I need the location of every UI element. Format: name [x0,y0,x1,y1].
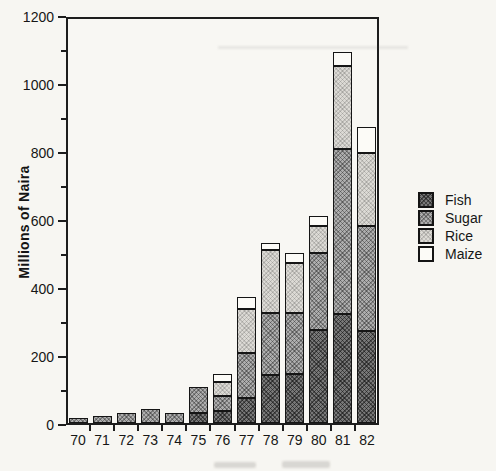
bar-78-segment-sugar [261,313,280,376]
x-tick-label-72: 72 [114,432,138,448]
x-tick-label-71: 71 [90,432,114,448]
bar-79-segment-sugar [285,313,304,374]
y-tick-label-0: 0 [12,418,54,432]
y-tick-400 [58,288,66,290]
y-tick-label-1200: 1200 [12,10,54,24]
legend-item-sugar: Sugar [418,209,482,227]
bar-79-segment-maize [285,253,304,263]
y-tick-label-800: 800 [12,146,54,160]
bar-82-segment-sugar [357,226,376,331]
bar-81-segment-maize [333,52,352,66]
bar-82-segment-rice [357,153,376,226]
cropped-caption-remnant [214,462,256,468]
bar-81-segment-rice [333,66,352,149]
bar-75-segment-fish [189,413,208,423]
y-tick-200 [58,356,66,358]
legend-label-sugar: Sugar [445,209,482,227]
bars-layer [68,19,377,423]
bar-76-segment-maize [213,374,232,383]
x-tick-label-80: 80 [307,432,331,448]
x-tick-72 [113,425,115,431]
y-tick-1000 [58,84,66,86]
legend: FishSugarRiceMaize [418,191,482,263]
legend-swatch-fish [418,192,434,208]
bar-77-segment-sugar [237,353,256,397]
y-tick-label-200: 200 [12,350,54,364]
legend-label-rice: Rice [445,227,473,245]
bar-73-segment-sugar [141,409,160,423]
y-tick-label-400: 400 [12,282,54,296]
bar-74-segment-sugar [165,413,184,423]
legend-swatch-maize [418,246,434,262]
x-tick-label-76: 76 [210,432,234,448]
legend-label-fish: Fish [445,191,471,209]
x-tick-80 [306,425,308,431]
y-tick-label-600: 600 [12,214,54,228]
y-tick-600 [58,220,66,222]
y-tick-0 [58,424,66,426]
bar-79-segment-fish [285,374,304,423]
plot-area [66,17,379,425]
bar-80-segment-maize [309,216,328,226]
x-tick-label-81: 81 [331,432,355,448]
bar-82-segment-fish [357,331,376,423]
bar-78-segment-fish [261,375,280,423]
bar-77-segment-fish [237,398,256,424]
x-tick-label-75: 75 [186,432,210,448]
x-tick-81 [330,425,332,431]
y-tick-1200 [58,16,66,18]
bar-72-segment-sugar [117,413,136,423]
bar-71-segment-sugar [93,416,112,423]
bar-81-segment-sugar [333,149,352,314]
bar-70-segment-sugar [69,418,88,423]
x-tick-71 [89,425,91,431]
legend-swatch-rice [418,228,434,244]
bar-75-segment-sugar [189,387,208,413]
x-tick-82 [354,425,356,431]
x-tick-78 [258,425,260,431]
bar-76-segment-rice [213,382,232,396]
bar-81-segment-fish [333,314,352,423]
x-tick-label-82: 82 [355,432,379,448]
bar-77-segment-rice [237,309,256,353]
bar-80-segment-fish [309,330,328,424]
legend-item-fish: Fish [418,191,482,209]
x-tick-label-70: 70 [66,432,90,448]
x-tick-label-79: 79 [283,432,307,448]
bar-77-segment-maize [237,297,256,309]
bar-79-segment-rice [285,263,304,312]
y-tick-800 [58,152,66,154]
y-tick-label-1000: 1000 [12,78,54,92]
legend-label-maize: Maize [445,245,482,263]
x-tick-74 [161,425,163,431]
bar-80-segment-rice [309,226,328,253]
legend-swatch-sugar [418,210,434,226]
x-tick-label-78: 78 [259,432,283,448]
cropped-caption-remnant [282,461,330,468]
x-tick-label-74: 74 [162,432,186,448]
bar-76-segment-fish [213,411,232,423]
x-tick-76 [209,425,211,431]
bar-82-segment-maize [357,127,376,153]
x-tick-75 [185,425,187,431]
x-tick-73 [137,425,139,431]
bar-78-segment-maize [261,243,280,250]
x-tick-label-73: 73 [138,432,162,448]
legend-item-maize: Maize [418,245,482,263]
x-tick-79 [282,425,284,431]
x-tick-77 [234,425,236,431]
legend-item-rice: Rice [418,227,482,245]
figure-canvas: Millions of Naira 020040060080010001200 … [0,0,496,471]
x-tick-label-77: 77 [235,432,259,448]
bar-76-segment-sugar [213,396,232,411]
bar-80-segment-sugar [309,253,328,330]
bar-78-segment-rice [261,250,280,313]
